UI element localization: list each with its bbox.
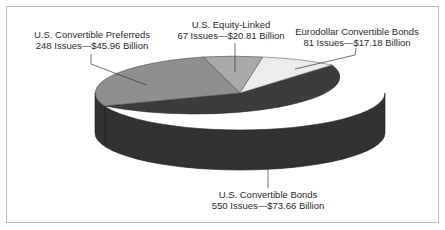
label-name: U.S. Equity-Linked: [171, 19, 291, 30]
label-name: U.S. Convertible Preferreds: [22, 29, 162, 40]
label-us-equity-linked: U.S. Equity-Linked 67 Issues—$20.81 Bill…: [171, 19, 291, 41]
label-detail: 67 Issues—$20.81 Billion: [171, 30, 291, 41]
label-name: Eurodollar Convertible Bonds: [286, 26, 428, 37]
label-us-convertible-preferreds: U.S. Convertible Preferreds 248 Issues—$…: [22, 29, 162, 51]
label-detail: 248 Issues—$45.96 Billion: [22, 40, 162, 51]
label-detail: 550 Issues—$73.66 Billion: [203, 200, 333, 211]
label-detail: 81 Issues—$17.18 Billion: [286, 37, 428, 48]
label-name: U.S. Convertible Bonds: [203, 189, 333, 200]
label-eurodollar-convertible-bonds: Eurodollar Convertible Bonds 81 Issues—$…: [286, 26, 428, 48]
label-us-convertible-bonds: U.S. Convertible Bonds 550 Issues—$73.66…: [203, 189, 333, 211]
